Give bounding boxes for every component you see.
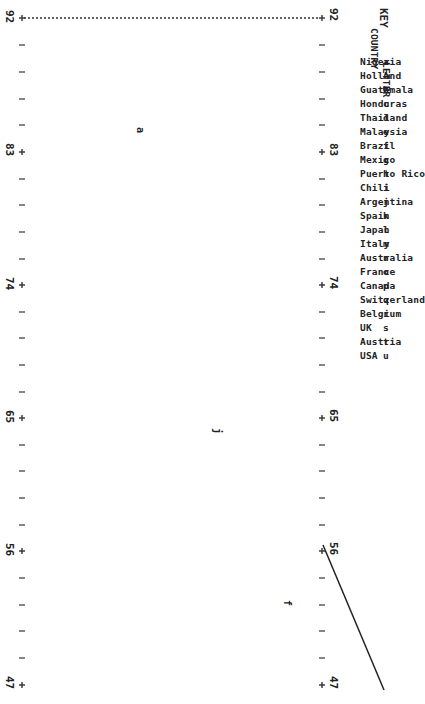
right-axis-label-74: 74: [327, 276, 340, 289]
legend-letter-f: f: [383, 140, 389, 151]
legend-letter-i: i: [383, 182, 389, 193]
legend-letter-n: n: [383, 252, 389, 263]
legend-country-brazil: Brazil: [360, 140, 396, 151]
left-ticks: [19, 15, 25, 688]
point-f-brazil: f: [282, 600, 293, 606]
legend-title: KEY: [377, 8, 390, 28]
legend-letter-s: s: [383, 322, 389, 333]
legend-letter-h: h: [383, 168, 389, 179]
legend-letter-a: a: [383, 56, 389, 67]
legend-letter-l: l: [383, 224, 389, 235]
legend-country-france: France: [360, 266, 396, 277]
legend-letter-r: r: [383, 308, 389, 319]
legend-country-switzerland: Switzerland: [360, 294, 425, 305]
point-j-argentina: j: [212, 428, 223, 434]
right-axis-label-83: 83: [327, 143, 340, 156]
legend-letter-g: g: [383, 154, 389, 165]
legend-letter-q: q: [383, 294, 389, 305]
point-a-nigeria: a: [135, 127, 146, 133]
legend-letter-t: t: [383, 336, 389, 347]
legend-country-uk: UK: [360, 322, 372, 333]
legend-letter-m: m: [383, 238, 389, 249]
legend-letter-c: c: [383, 98, 389, 109]
legend-country-belgium: Belgium: [360, 308, 401, 319]
legend-letter-b: b: [383, 84, 389, 95]
legend-country-nigeria: Nigeria: [360, 56, 401, 67]
right-axis-label-47: 47: [327, 676, 340, 689]
legend-country-canada: Canada: [360, 280, 396, 291]
right-axis-label-56: 56: [327, 542, 340, 555]
legend-country-usa: USA: [360, 350, 378, 361]
legend-letter-u: u: [383, 350, 389, 361]
legend-letter-p: p: [383, 280, 389, 291]
legend-country-puerto-rico: Puerto Rico: [360, 168, 425, 179]
legend-letter-A: A: [383, 70, 389, 81]
legend-country-mexico: Mexico: [360, 154, 396, 165]
legend-letter-k: k: [383, 210, 389, 221]
trend-line: [323, 545, 384, 690]
legend-country-holland: Holland: [360, 70, 401, 81]
right-axis-label-65: 65: [327, 409, 340, 422]
right-ticks: [319, 15, 325, 688]
legend-letter-o: o: [383, 266, 389, 277]
legend-letter-d: d: [383, 112, 389, 123]
legend-letter-j: j: [383, 196, 389, 207]
legend-country-austria: Austria: [360, 336, 401, 347]
right-axis-label-92: 92: [327, 8, 340, 21]
legend-letter-e: e: [383, 126, 389, 137]
